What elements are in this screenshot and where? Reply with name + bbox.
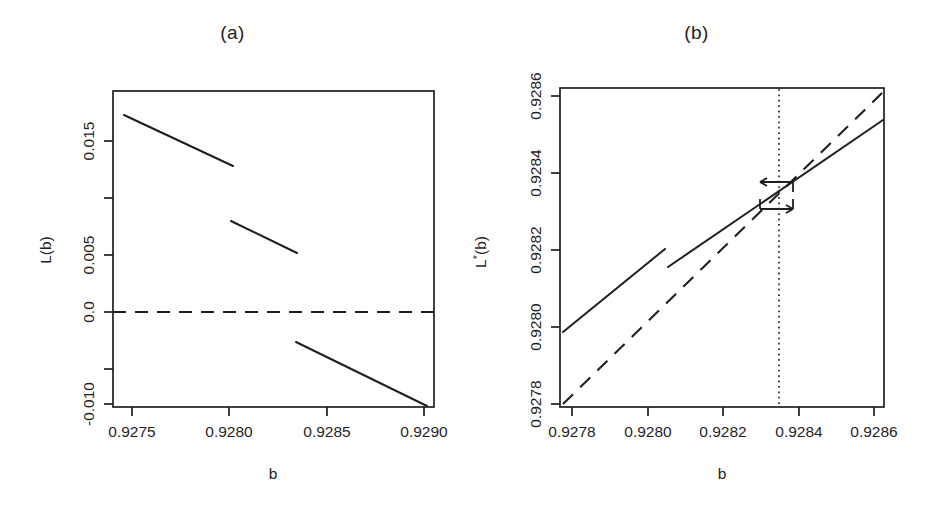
panel-a-xtick-label-1: 0.9280 bbox=[205, 423, 253, 440]
panel-b-xlabel: b bbox=[718, 465, 727, 482]
panel-a-ytick-label-3: -0.010 bbox=[80, 382, 97, 426]
panel-b-y-ticks bbox=[551, 96, 560, 404]
panel-a-xtick-label-3: 0.9290 bbox=[400, 423, 448, 440]
panel-a-ytick-label-1: 0.005 bbox=[80, 236, 97, 275]
panel-b-xtick-label-4: 0.9286 bbox=[850, 423, 897, 440]
panel-b-ylabel: L*(b) bbox=[471, 236, 489, 268]
panel-b-ytick-label-2: 0.9282 bbox=[527, 226, 544, 273]
panel-b-ytick-label-1: 0.9284 bbox=[527, 149, 544, 197]
panel-b-xtick-label-1: 0.9280 bbox=[624, 423, 672, 440]
panel-b-ytick-label-3: 0.9280 bbox=[527, 303, 544, 351]
panel-a-frame bbox=[113, 91, 434, 407]
panel-b-ytick-label-4: 0.9278 bbox=[527, 380, 544, 427]
panel-a-branch-1 bbox=[124, 115, 233, 166]
panel-a-x-ticks bbox=[132, 407, 424, 416]
panel-b-frame bbox=[560, 88, 884, 407]
panel-a-branch-2 bbox=[231, 221, 297, 253]
panel-a-ytick-label-2: 0.0 bbox=[80, 301, 97, 323]
panel-a-xtick-label-2: 0.9285 bbox=[303, 423, 350, 440]
panel-a-ylabel: L(b) bbox=[37, 236, 54, 264]
panel-b-plot: 0.9286 0.9284 0.9282 0.9280 0.9278 0.927… bbox=[464, 0, 929, 517]
panel-a-branch-3 bbox=[296, 342, 427, 406]
panel-b-ytick-label-0: 0.9286 bbox=[527, 72, 544, 119]
svg-text:L*(b): L*(b) bbox=[471, 236, 489, 268]
panel-a-plot: 0.015 0.005 0.0 -0.010 0.9275 0.9280 0.9… bbox=[0, 0, 465, 517]
panel-b-xtick-label-0: 0.9278 bbox=[548, 423, 595, 440]
panel-a-xtick-label-0: 0.9275 bbox=[108, 423, 155, 440]
panel-b-xtick-label-2: 0.9282 bbox=[699, 423, 746, 440]
panel-a-ytick-label-0: 0.015 bbox=[80, 122, 97, 161]
panel-a: (a) 0.015 0.005 0.0 -0.010 bbox=[0, 0, 465, 517]
panel-b-ylabel-tail: (b) bbox=[472, 236, 489, 255]
panel-b-x-ticks bbox=[572, 407, 874, 416]
panel-b-data bbox=[563, 89, 883, 406]
panel-a-y-ticks bbox=[104, 141, 113, 404]
panel-b-branch-2 bbox=[668, 120, 883, 267]
panel-a-data bbox=[113, 115, 434, 406]
figure-root: (a) 0.015 0.005 0.0 -0.010 bbox=[0, 0, 929, 517]
panel-b-xtick-label-3: 0.9284 bbox=[775, 423, 823, 440]
panel-a-xlabel: b bbox=[269, 465, 278, 482]
panel-b: (b) 0.9286 0.9284 0.9282 0.9280 0.9278 bbox=[464, 0, 929, 517]
panel-b-identity-dashed-line bbox=[563, 93, 882, 404]
